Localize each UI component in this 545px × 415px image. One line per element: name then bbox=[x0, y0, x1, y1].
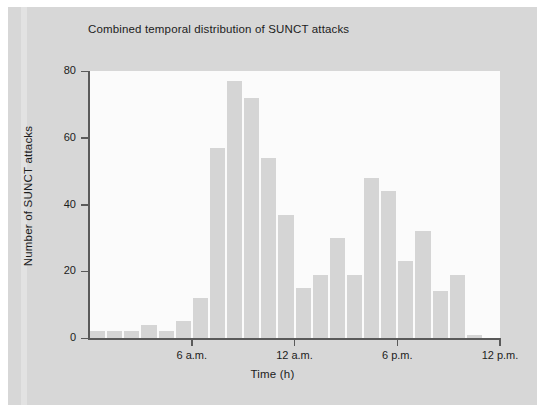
bar bbox=[432, 291, 449, 338]
bar bbox=[277, 215, 294, 338]
y-axis-tick bbox=[81, 204, 89, 206]
figure-canvas: Combined temporal distribution of SUNCT … bbox=[0, 0, 545, 415]
y-axis-tick bbox=[81, 271, 89, 273]
x-axis-tick bbox=[397, 339, 399, 346]
bar bbox=[175, 321, 192, 338]
bar bbox=[397, 261, 414, 338]
bar bbox=[363, 178, 380, 338]
x-axis-tick-label: 12 a.m. bbox=[265, 349, 325, 361]
bar bbox=[226, 81, 243, 338]
bar bbox=[414, 231, 431, 338]
chart-title: Combined temporal distribution of SUNCT … bbox=[88, 22, 388, 37]
y-axis-tick bbox=[81, 71, 89, 73]
bar bbox=[346, 275, 363, 338]
x-axis-tick-label: 6 p.m. bbox=[367, 349, 427, 361]
y-axis-tick-label: 20 bbox=[36, 264, 76, 276]
x-axis-tick-label: 12 p.m. bbox=[470, 349, 530, 361]
bar bbox=[243, 98, 260, 338]
x-axis-title: Time (h) bbox=[0, 368, 545, 380]
bar bbox=[260, 158, 277, 338]
bar bbox=[209, 148, 226, 338]
y-axis-tick-label: 80 bbox=[36, 64, 76, 76]
bar bbox=[192, 298, 209, 338]
bar bbox=[312, 275, 329, 338]
bar bbox=[89, 331, 106, 338]
bar bbox=[140, 325, 157, 338]
bar bbox=[106, 331, 123, 338]
y-axis-tick-label: 60 bbox=[36, 131, 76, 143]
y-axis-title: Number of SUNCT attacks bbox=[22, 106, 34, 286]
x-axis-tick-label: 6 a.m. bbox=[162, 349, 222, 361]
x-axis-tick bbox=[294, 339, 296, 346]
y-axis-tick bbox=[81, 137, 89, 139]
bar bbox=[329, 238, 346, 338]
y-axis-tick-label: 40 bbox=[36, 198, 76, 210]
x-axis-tick bbox=[499, 339, 501, 346]
y-axis-tick-label: 0 bbox=[36, 331, 76, 343]
bar bbox=[158, 331, 175, 338]
bar bbox=[123, 331, 140, 338]
x-axis-tick bbox=[191, 339, 193, 346]
bar bbox=[380, 191, 397, 338]
bar bbox=[295, 288, 312, 338]
bar bbox=[449, 275, 466, 338]
plot-area bbox=[89, 71, 500, 338]
